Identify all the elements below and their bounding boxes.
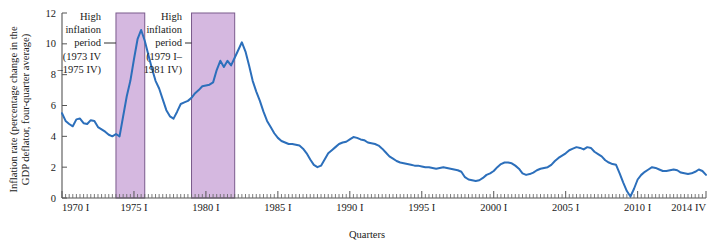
annotation-line: period xyxy=(74,37,102,48)
chart-canvas: 024681012 1970 I1975 I1980 I1985 I1990 I… xyxy=(0,0,713,245)
x-tick-label: 1990 I xyxy=(336,202,364,213)
annotation-line: inflation xyxy=(65,24,101,35)
x-tick-label: 1995 I xyxy=(408,202,436,213)
x-tick-label: 1975 I xyxy=(120,202,148,213)
annotation-line: (1973 IV xyxy=(63,51,102,63)
y-tick-label: 10 xyxy=(46,38,57,49)
annotation-line: period xyxy=(155,37,183,48)
annotation-line: 1981 IV) xyxy=(144,64,183,76)
inflation-rate-chart-figure: 024681012 1970 I1975 I1980 I1985 I1990 I… xyxy=(0,0,713,245)
y-axis: 024681012 xyxy=(46,8,68,204)
x-tick-label: 2000 I xyxy=(480,202,508,213)
annotation-line: (1979 I– xyxy=(146,51,183,63)
x-tick-label: 1980 I xyxy=(192,202,220,213)
y-tick-label: 2 xyxy=(51,162,56,173)
annotation-line: –1975 IV) xyxy=(57,64,102,76)
shaded-band-2 xyxy=(192,13,235,198)
y-tick-label: 6 xyxy=(51,100,56,111)
y-tick-label: 4 xyxy=(51,131,57,142)
x-tick-label: 1970 I xyxy=(62,202,90,213)
y-axis-title-line-1: Inflation rate (percentage change in the xyxy=(8,26,20,192)
y-axis-title: Inflation rate (percentage change in the… xyxy=(8,26,32,192)
x-tick-label: 1985 I xyxy=(264,202,292,213)
x-axis: 1970 I1975 I1980 I1985 I1990 I1995 I2000… xyxy=(62,191,706,213)
x-axis-title: Quarters xyxy=(349,229,385,240)
x-tick-label: 2005 I xyxy=(552,202,580,213)
shaded-band-1 xyxy=(116,13,145,198)
y-axis-title-line-2: GDP deflator, four-quarter average) xyxy=(20,33,32,185)
x-tick-label: 2010 I xyxy=(624,202,652,213)
y-tick-label: 12 xyxy=(46,8,57,19)
annotation-line: inflation xyxy=(146,24,182,35)
annotation-line: High xyxy=(80,11,102,22)
x-tick-label: 2014 IV xyxy=(671,202,706,213)
y-tick-label: 8 xyxy=(51,69,56,80)
annotation-line: High xyxy=(161,11,183,22)
y-tick-label: 0 xyxy=(51,193,56,204)
